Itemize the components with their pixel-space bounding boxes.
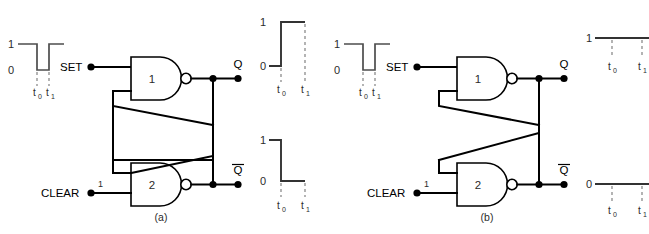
qbar-output-terminal-a[interactable] [234, 181, 241, 188]
gate-1-number-b: 1 [475, 73, 481, 85]
set-t1-label-b: t [372, 87, 375, 98]
set-low-level-label-a: 0 [8, 64, 14, 76]
q-wave-t1-label-b: t [638, 61, 641, 72]
set-input-waveform-a [18, 44, 64, 86]
set-input-waveform-b [344, 44, 390, 86]
set-high-level-label-a: 1 [8, 38, 14, 50]
qbar-output-label-b: Q [560, 164, 569, 176]
q-wave-low-label-a: 0 [260, 60, 266, 72]
q-wave-high-label-b: 1 [586, 32, 592, 44]
q-wave-high-label-a: 1 [260, 16, 266, 28]
qbar-wave-low-label-a: 0 [260, 175, 266, 187]
nand-gate-2-b[interactable] [457, 163, 517, 206]
clear-input-value-a: 1 [98, 179, 103, 189]
q-output-waveform-b [595, 38, 649, 58]
set-t0-label-b: t [359, 87, 362, 98]
q-output-terminal-b[interactable] [560, 75, 567, 82]
qbar-wave-t1-label-b: t [638, 205, 641, 216]
panel-caption-b: (b) [481, 211, 494, 223]
set-t1-label-a: t [46, 87, 49, 98]
q-output-waveform-a [269, 22, 305, 82]
gate-2-number-b: 2 [475, 179, 481, 191]
q-output-terminal-a[interactable] [234, 75, 241, 82]
set-t1-sub-a: 1 [51, 93, 55, 100]
qbar-wave-t0-label-b: t [608, 205, 611, 216]
qbar-wave-t0-label-a: t [277, 200, 280, 211]
clear-input-label-b: CLEAR [367, 187, 405, 199]
qbar-wave-t1-label-a: t [301, 200, 304, 211]
q-wave-t0-sub-a: 0 [282, 90, 286, 97]
qbar-wave-t0-sub-b: 0 [613, 211, 617, 218]
circuit-panel-a: 1 0 t 0 t 1 SET 1 Q 2 Q CLE [0, 0, 325, 234]
gate-1-bubble-b [507, 73, 517, 83]
qbar-output-terminal-b[interactable] [560, 181, 567, 188]
q-output-label-a: Q [234, 58, 243, 70]
qbar-wave-high-label-a: 1 [260, 134, 266, 146]
panel-caption-a: (a) [155, 211, 168, 223]
gate-2-number-a: 2 [149, 179, 155, 191]
set-low-level-label-b: 0 [334, 64, 340, 76]
gate-1-bubble-a [181, 73, 191, 83]
figure-root: 1 0 t 0 t 1 SET 1 Q 2 Q CLE [0, 0, 649, 234]
qbar-wave-t0-sub-a: 0 [282, 206, 286, 213]
qbar-wave-t1-sub-a: 1 [306, 206, 310, 213]
q-wave-t0-sub-b: 0 [613, 67, 617, 74]
set-t0-sub-a: 0 [38, 93, 42, 100]
set-input-label-b: SET [386, 61, 408, 73]
q-wave-t1-sub-b: 1 [643, 67, 647, 74]
feedback-q-stub-a [113, 160, 131, 173]
qbar-wave-low-label-b: 0 [586, 178, 592, 190]
circuit-panel-b: 1 0 t 0 t 1 SET 1 Q 2 Q CLE [324, 0, 649, 234]
set-t0-label-a: t [33, 87, 36, 98]
q-output-label-b: Q [560, 58, 569, 70]
gate-1-number-a: 1 [149, 73, 155, 85]
qbar-output-label-a: Q [234, 164, 243, 176]
qbar-output-waveform-a [269, 140, 305, 197]
gate-2-bubble-b [507, 179, 517, 189]
set-t0-sub-b: 0 [364, 93, 368, 100]
qbar-output-waveform-b [595, 184, 649, 202]
q-wave-t1-sub-a: 1 [306, 90, 310, 97]
q-wave-t1-label-a: t [301, 84, 304, 95]
clear-input-label-a: CLEAR [41, 187, 79, 199]
nand-gate-1-b[interactable] [457, 57, 517, 100]
gate-2-bubble-a [181, 179, 191, 189]
set-t1-sub-b: 1 [377, 93, 381, 100]
nand-gate-2-a[interactable] [131, 163, 191, 206]
qbar-wave-t1-sub-b: 1 [643, 211, 647, 218]
clear-input-value-b: 1 [424, 179, 429, 189]
q-wave-t0-label-b: t [608, 61, 611, 72]
nand-gate-1-a[interactable] [131, 57, 191, 100]
set-high-level-label-b: 1 [334, 38, 340, 50]
set-input-label-a: SET [60, 61, 82, 73]
feedback-q-stub-b [439, 160, 457, 173]
q-wave-t0-label-a: t [277, 84, 280, 95]
